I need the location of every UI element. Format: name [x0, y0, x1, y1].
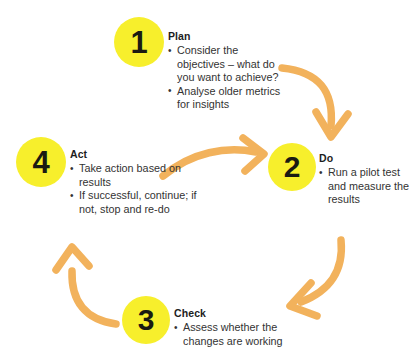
bullet-item: Analyse older metrics for insights: [168, 85, 288, 112]
step-number-badge-2: 2: [268, 143, 316, 191]
step-heading-check: Check: [174, 307, 314, 319]
step-bullets-do: Run a pilot test and measure the results: [319, 166, 419, 207]
step-heading-do: Do: [319, 152, 419, 164]
step-number-2: 2: [284, 152, 301, 182]
step-bullets-plan: Consider the objectives – what do you wa…: [168, 44, 288, 112]
step-text-act: Act Take action based on results If succ…: [70, 148, 198, 216]
step-number-4: 4: [32, 147, 49, 178]
bullet-item: Assess whether the changes are working: [174, 321, 314, 348]
step-number-badge-3: 3: [122, 296, 170, 344]
arrow-do-to-check: [290, 240, 341, 316]
arrow-plan-to-do: [282, 68, 348, 137]
step-bullets-act: Take action based on results If successf…: [70, 162, 198, 216]
step-number-badge-4: 4: [16, 137, 66, 187]
bullet-item: If successful, continue; if not, stop an…: [70, 189, 198, 216]
step-heading-plan: Plan: [168, 30, 288, 42]
step-heading-act: Act: [70, 148, 198, 160]
step-number-3: 3: [138, 305, 155, 335]
bullet-item: Take action based on results: [70, 162, 198, 189]
step-number-badge-1: 1: [114, 17, 164, 67]
step-text-check: Check Assess whether the changes are wor…: [174, 307, 314, 348]
bullet-item: Run a pilot test and measure the results: [319, 166, 419, 207]
arrow-check-to-act: [56, 247, 116, 324]
step-text-plan: Plan Consider the objectives – what do y…: [168, 30, 288, 112]
step-bullets-check: Assess whether the changes are working: [174, 321, 314, 348]
bullet-item: Consider the objectives – what do you wa…: [168, 44, 288, 85]
step-text-do: Do Run a pilot test and measure the resu…: [319, 152, 419, 207]
pdca-cycle-diagram: 1 Plan Consider the objectives – what do…: [0, 0, 419, 362]
step-number-1: 1: [130, 27, 147, 58]
